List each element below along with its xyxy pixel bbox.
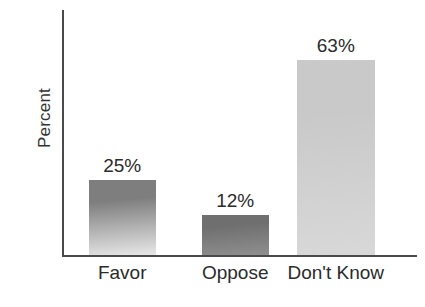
category-label-favor: Favor (98, 262, 147, 284)
bar-favor[interactable] (89, 180, 156, 255)
bar-group-oppose: 12% (202, 10, 269, 255)
bar-oppose[interactable] (202, 215, 269, 255)
x-axis-line (62, 255, 417, 257)
bar-value-favor: 25% (103, 155, 141, 177)
category-label-oppose: Oppose (202, 262, 269, 284)
bar-dont-know[interactable] (297, 60, 375, 255)
bar-value-dont-know: 63% (317, 35, 355, 57)
plot-area: 25% 12% 63% (64, 10, 417, 255)
category-axis: Favor Oppose Don't Know (64, 262, 417, 302)
y-axis-title: Percent (35, 63, 55, 173)
bar-value-oppose: 12% (216, 190, 254, 212)
bar-chart-figure: Percent 25% 12% 63% Favor Oppose Don't K… (0, 0, 425, 307)
category-label-dont-know: Don't Know (288, 262, 385, 284)
bar-group-favor: 25% (89, 10, 156, 255)
bar-group-dont-know: 63% (297, 10, 375, 255)
